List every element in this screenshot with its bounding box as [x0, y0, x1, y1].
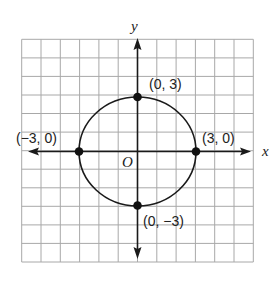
x-axis-label: x — [261, 143, 269, 159]
x-axis — [28, 148, 251, 156]
point-right — [192, 147, 201, 156]
label-right-point: (3, 0) — [202, 130, 235, 146]
y-axis-label: y — [129, 18, 138, 34]
y-axis — [134, 38, 142, 259]
coordinate-plane: y x O (0, 3) (−3, 0) (3, 0) (0, −3) — [0, 0, 278, 285]
point-bottom — [133, 201, 142, 210]
origin-label: O — [122, 154, 133, 170]
point-left — [75, 147, 84, 156]
label-top-point: (0, 3) — [149, 76, 182, 92]
point-top — [133, 93, 142, 102]
label-bottom-point: (0, −3) — [143, 213, 184, 229]
label-left-point: (−3, 0) — [16, 130, 57, 146]
